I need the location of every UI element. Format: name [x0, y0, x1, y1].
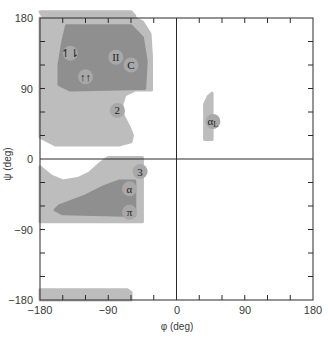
x-tick-label-90: 90 [239, 304, 251, 316]
x-axis-title: φ (deg) [161, 321, 194, 332]
ramachandran-plot: ↿⇂IIC↑↑23απαL −180 −90 0 90 180 180 90 0… [0, 0, 328, 340]
y-tick-label-neg180: −180 [8, 294, 33, 306]
annotation-polyproline-II-helix: II [108, 50, 123, 65]
annotation-label: 3 [137, 166, 143, 178]
annotation-antiparallel-beta-sheet: ↿⇂ [61, 46, 79, 61]
annotation-label: ↿⇂ [61, 47, 79, 59]
y-axis-title: ψ (deg) [2, 147, 13, 180]
annotation-label: ↑↑ [80, 71, 91, 83]
annotation-right-handed-alpha-helix: α [122, 181, 137, 196]
annotation-2-7-ribbon: 2 [110, 103, 125, 118]
annotation-3-10-helix: 3 [133, 164, 148, 179]
annotation-pi-helix: π [122, 205, 137, 220]
annotation-label: 2 [115, 104, 121, 116]
y-tick-label-neg90: −90 [14, 224, 33, 236]
annotation-label: II [112, 51, 120, 63]
y-tick-label-180: 180 [15, 12, 33, 24]
annotation-label: α [127, 183, 133, 195]
annotation-label: π [127, 206, 133, 218]
y-tick-label-90: 90 [21, 83, 33, 95]
x-tick-label-neg90: −90 [99, 304, 118, 316]
annotation-label: C [127, 59, 134, 71]
annotation-collagen-helix: C [124, 58, 139, 73]
x-tick-label-0: 0 [174, 304, 180, 316]
x-tick-label-180: 180 [304, 304, 322, 316]
annotation-parallel-beta-sheet: ↑↑ [78, 69, 93, 84]
annotation-left-handed-alpha-helix: αL [205, 114, 220, 129]
y-tick-label-0: 0 [27, 153, 33, 165]
